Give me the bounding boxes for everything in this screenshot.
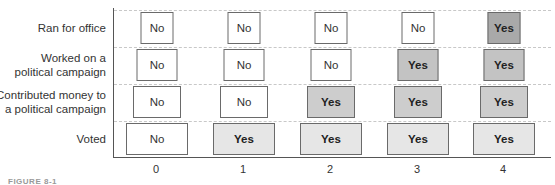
cell-r1-c4: Yes [484,49,525,81]
cell-r1-c0: No [137,49,178,81]
cell-r0-c4: Yes [488,12,521,44]
chart-plot-area: NoNoNoNoYesNoNoNoYesYesNoNoYesYesYesNoYe… [113,8,551,158]
cell-r3-c1: Yes [213,123,275,155]
row-label-line: political campaign [0,65,106,79]
cell-r2-c2: Yes [307,86,355,118]
row-label-ran-for-office: Ran for office [0,21,106,35]
gridline [114,84,551,85]
row-label-text: Voted [77,133,106,145]
gridline [114,10,551,11]
x-tick-1: 1 [240,163,246,175]
cell-r1-c3: Yes [398,49,439,81]
row-label-line: a political campaign [0,102,106,116]
cell-r0-c2: No [315,12,348,44]
cell-r3-c4: Yes [473,123,535,155]
cell-r2-c1: No [220,86,268,118]
cell-r0-c0: No [141,12,174,44]
row-label-line: Contributed money to [0,88,106,102]
cell-r3-c3: Yes [387,123,449,155]
row-label-contributed-money: Contributed money to a political campaig… [0,88,106,116]
row-label-line: Worked on a [0,51,106,65]
cell-r2-c4: Yes [480,86,528,118]
x-tick-4: 4 [500,163,506,175]
figure-caption: FIGURE 8-1 [8,177,57,185]
gridline [114,47,551,48]
cell-r1-c1: No [224,49,265,81]
cell-r2-c3: Yes [394,86,442,118]
cell-r3-c0: No [126,123,188,155]
cell-r1-c2: No [311,49,352,81]
row-label-worked-on-campaign: Worked on a political campaign [0,51,106,79]
gridline [114,121,551,122]
x-tick-3: 3 [414,163,420,175]
cell-r0-c1: No [228,12,261,44]
cell-r3-c2: Yes [300,123,362,155]
cell-r0-c3: No [402,12,435,44]
row-label-voted: Voted [0,132,106,146]
x-tick-0: 0 [153,163,159,175]
x-tick-2: 2 [327,163,333,175]
row-label-text: Ran for office [38,22,106,34]
cell-r2-c0: No [133,86,181,118]
